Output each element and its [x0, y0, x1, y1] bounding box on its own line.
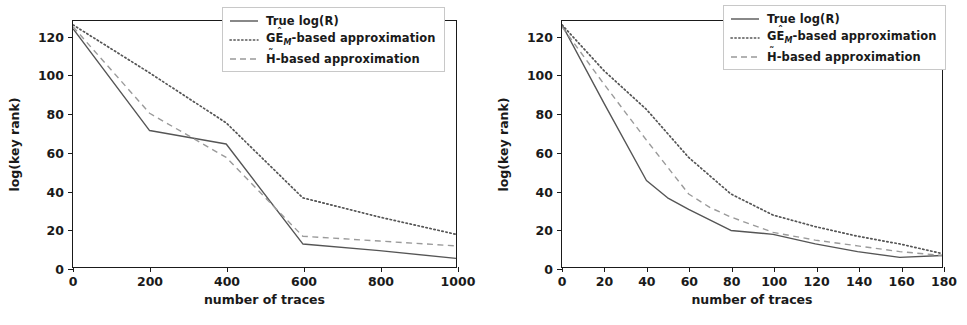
legend-swatch-dotted: [730, 32, 760, 44]
legend-h-prefix: ˜H: [767, 50, 777, 64]
legend-item-h-based-approximation: ˜H-based approximation: [229, 51, 436, 66]
legend-h-suffix: -based approximation: [777, 50, 921, 64]
y-tick-label: 0: [55, 262, 64, 277]
x-axis-title-left-text: number of traces: [204, 292, 325, 307]
x-tick-label: 160: [889, 274, 915, 289]
x-tick: [859, 267, 860, 272]
x-tick: [562, 267, 563, 272]
y-axis-title-right-text: log(key rank): [496, 97, 511, 191]
x-tick-label: 400: [214, 274, 240, 289]
y-axis-title-left: log(key rank): [6, 20, 22, 268]
y-tick: [68, 192, 73, 193]
y-tick: [68, 37, 73, 38]
x-tick-label: 1000: [441, 274, 476, 289]
x-tick: [647, 267, 648, 272]
x-tick: [944, 267, 945, 272]
legend-item-gem-based-approximation: GˆEM-based approximation: [730, 30, 937, 45]
y-tick: [68, 114, 73, 115]
x-tick: [604, 267, 605, 272]
y-tick-label: 80: [47, 107, 64, 122]
y-tick-label: 120: [38, 29, 64, 44]
x-tick-label: 80: [723, 274, 740, 289]
x-axis-title-right-text: number of traces: [691, 292, 812, 307]
x-axis-title-right: number of traces: [561, 292, 943, 307]
y-tick-label: 80: [536, 107, 553, 122]
x-tick-label: 600: [291, 274, 317, 289]
legend-ge-prefix: GˆE: [767, 29, 785, 43]
x-tick-label: 0: [558, 274, 567, 289]
legend-item-true-log-r: True log(R): [730, 11, 937, 26]
y-tick: [557, 153, 562, 154]
legend-swatch-dashed: [229, 53, 259, 65]
y-tick-label: 120: [527, 29, 553, 44]
y-tick-label: 60: [47, 145, 64, 160]
y-tick-label: 40: [536, 184, 553, 199]
y-tick-label: 100: [527, 68, 553, 83]
x-tick: [150, 267, 151, 272]
legend-label-gem-based-approximation: GˆEM-based approximation: [266, 31, 436, 47]
y-tick: [68, 153, 73, 154]
legend-item-h-based-approximation: ˜H-based approximation: [730, 49, 937, 64]
chart-panel-left: log(key rank) 02040608010012002004006008…: [0, 0, 483, 325]
legend-swatch-dashed: [730, 51, 760, 63]
y-axis-title-right: log(key rank): [495, 20, 511, 268]
chart-panel-right: log(key rank) 02040608010012002040608010…: [483, 0, 967, 325]
x-tick: [73, 267, 74, 272]
legend-swatch-solid: [730, 13, 760, 25]
y-axis-title-left-text: log(key rank): [7, 97, 22, 191]
x-tick-label: 60: [681, 274, 698, 289]
y-tick: [557, 192, 562, 193]
x-tick: [774, 267, 775, 272]
y-tick-label: 40: [47, 184, 64, 199]
figure: log(key rank) 02040608010012002004006008…: [0, 0, 967, 325]
x-tick-label: 0: [69, 274, 78, 289]
legend-label-gem-based-approximation: GˆEM-based approximation: [767, 29, 937, 45]
x-tick-label: 800: [368, 274, 394, 289]
legend-left: True log(R) GˆEM-based approximation ˜H-…: [222, 7, 445, 72]
y-tick-label: 0: [544, 262, 553, 277]
y-tick: [557, 230, 562, 231]
legend-ge-prefix: GˆE: [266, 31, 284, 45]
x-tick: [458, 267, 459, 272]
x-tick-label: 200: [137, 274, 163, 289]
x-tick: [689, 267, 690, 272]
x-tick: [902, 267, 903, 272]
y-tick-label: 20: [47, 223, 64, 238]
legend-h-suffix: -based approximation: [276, 52, 420, 66]
y-tick-label: 20: [536, 223, 553, 238]
x-tick-label: 180: [931, 274, 957, 289]
x-tick: [732, 267, 733, 272]
legend-item-true-log-r: True log(R): [229, 13, 436, 28]
legend-label-h-based-approximation: ˜H-based approximation: [266, 52, 420, 66]
legend-ge-subscript: M: [284, 39, 292, 48]
x-tick-label: 140: [846, 274, 872, 289]
legend-right: True log(R) GˆEM-based approximation ˜H-…: [723, 5, 946, 70]
legend-ge-suffix: -based approximation: [793, 29, 937, 43]
x-tick-label: 120: [804, 274, 830, 289]
x-tick: [817, 267, 818, 272]
legend-item-gem-based-approximation: GˆEM-based approximation: [229, 32, 436, 47]
y-tick: [68, 75, 73, 76]
x-tick: [381, 267, 382, 272]
x-tick-label: 20: [596, 274, 613, 289]
x-tick: [304, 267, 305, 272]
x-tick: [227, 267, 228, 272]
x-tick-label: 40: [638, 274, 655, 289]
y-tick: [68, 230, 73, 231]
y-tick: [557, 114, 562, 115]
legend-h-prefix: ˜H: [266, 52, 276, 66]
legend-ge-suffix: -based approximation: [292, 31, 436, 45]
legend-swatch-solid: [229, 15, 259, 27]
legend-swatch-dotted: [229, 34, 259, 46]
legend-label-true-log-r: True log(R): [266, 14, 339, 28]
x-axis-title-left: number of traces: [72, 292, 457, 307]
legend-label-true-log-r: True log(R): [767, 12, 840, 26]
legend-label-h-based-approximation: ˜H-based approximation: [767, 50, 921, 64]
y-tick: [557, 75, 562, 76]
x-tick-label: 100: [761, 274, 787, 289]
y-tick-label: 100: [38, 68, 64, 83]
legend-ge-subscript: M: [785, 37, 793, 46]
y-tick: [557, 37, 562, 38]
y-tick-label: 60: [536, 145, 553, 160]
